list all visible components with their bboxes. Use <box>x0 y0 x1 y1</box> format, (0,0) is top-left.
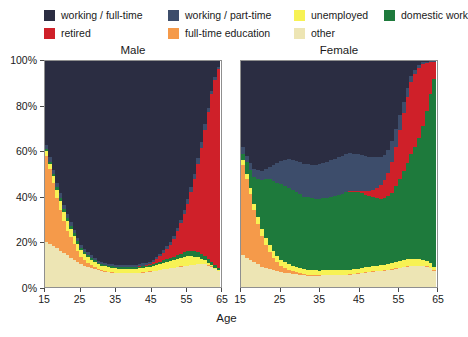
x-axis-label: 65 <box>216 293 228 305</box>
y-axis-label: 80% <box>3 100 37 112</box>
x-axis-label: 35 <box>313 293 325 305</box>
stack-column <box>432 61 436 287</box>
legend-swatch-working-full-time <box>44 10 55 21</box>
legend-item-unemployed: unemployed <box>294 8 368 23</box>
y-axis-label: 100% <box>3 54 37 66</box>
segment-other <box>432 271 436 287</box>
legend-item-working-full-time: working / full-time <box>44 8 143 23</box>
y-axis: 0%20%40%60%80%100% <box>0 60 44 288</box>
x-axis-tick <box>437 288 438 292</box>
x-axis-tick <box>240 288 241 292</box>
x-axis-tick <box>115 288 116 292</box>
legend-label-unemployed: unemployed <box>311 10 368 21</box>
x-axis-label: 65 <box>432 293 444 305</box>
x-axis-male: 152535455565 <box>44 288 222 310</box>
segment-retired <box>217 69 220 268</box>
panel-title-male: Male <box>44 44 222 56</box>
legend-swatch-domestic-work <box>384 10 395 21</box>
x-axis-label: 55 <box>181 293 193 305</box>
legend-label-full-time-education: full-time education <box>185 28 270 39</box>
plot-area-male <box>44 60 222 288</box>
stacked-area-male <box>45 61 221 287</box>
x-axis-female: 152535455565 <box>240 288 438 310</box>
x-axis-label: 15 <box>234 293 246 305</box>
legend-row-top: working / full-time working / part-time … <box>44 8 444 23</box>
legend-item-domestic-work: domestic work <box>384 8 468 23</box>
segment-retired <box>432 62 436 80</box>
stacked-area-female <box>241 61 437 287</box>
legend-label-retired: retired <box>61 28 91 39</box>
legend-item-retired: retired <box>44 26 91 41</box>
legend-label-working-full-time: working / full-time <box>61 10 143 21</box>
x-axis-tick <box>359 288 360 292</box>
x-axis-label: 15 <box>38 293 50 305</box>
y-axis-label: 40% <box>3 191 37 203</box>
x-axis-label: 25 <box>274 293 286 305</box>
x-axis-label: 35 <box>109 293 121 305</box>
legend-swatch-working-part-time <box>168 10 179 21</box>
x-axis-tick <box>44 288 45 292</box>
legend-swatch-full-time-education <box>168 28 179 39</box>
x-axis-tick <box>398 288 399 292</box>
y-axis-label: 0% <box>3 282 37 294</box>
panel-title-female: Female <box>240 44 438 56</box>
legend-label-working-part-time: working / part-time <box>185 10 271 21</box>
legend-label-domestic-work: domestic work <box>401 10 468 21</box>
x-axis-tick <box>319 288 320 292</box>
segment-domestic <box>432 79 436 266</box>
plot-area-female <box>240 60 438 288</box>
x-axis-label: 45 <box>145 293 157 305</box>
stack-column <box>217 61 220 287</box>
legend-swatch-other <box>294 28 305 39</box>
x-axis-tick <box>151 288 152 292</box>
legend-item-other: other <box>294 26 335 41</box>
legend-item-full-time-education: full-time education <box>168 26 270 41</box>
x-axis-label: 45 <box>353 293 365 305</box>
x-axis-tick <box>80 288 81 292</box>
legend-swatch-retired <box>44 28 55 39</box>
y-axis-label: 20% <box>3 236 37 248</box>
x-axis-label: 25 <box>74 293 86 305</box>
x-axis-title: Age <box>0 312 453 324</box>
y-axis-label: 60% <box>3 145 37 157</box>
x-axis-tick <box>280 288 281 292</box>
segment-other <box>217 271 220 287</box>
x-axis-tick <box>186 288 187 292</box>
x-axis-label: 55 <box>393 293 405 305</box>
legend-label-other: other <box>311 28 335 39</box>
x-axis-tick <box>221 288 222 292</box>
chart-legend: working / full-time working / part-time … <box>44 8 444 44</box>
legend-item-working-part-time: working / part-time <box>168 8 271 23</box>
legend-swatch-unemployed <box>294 10 305 21</box>
legend-row-bottom: retired full-time education other <box>44 26 444 41</box>
